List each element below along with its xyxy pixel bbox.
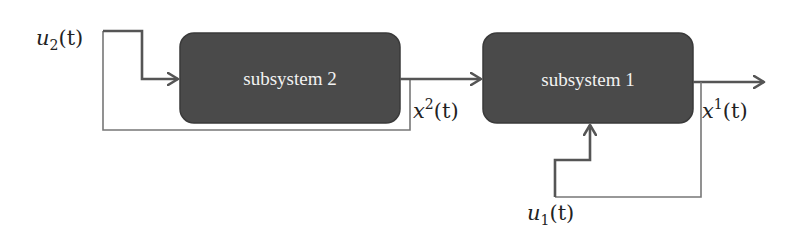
arrow-u1-to-subsystem1 [555,125,590,197]
signal-label-u2: u2(t) [36,26,83,53]
signal-label-x1: x1(t) [702,96,748,123]
signal-label-u1: u1(t) [527,201,574,228]
subsystem-1-label: subsystem 1 [541,69,634,90]
arrow-u2-to-subsystem2 [103,31,178,79]
signal-label-x2: x2(t) [413,96,459,123]
block-subsystem-1: subsystem 1 [483,33,693,123]
block-diagram: subsystem 2 subsystem 1 u2(t) x2(t) x1(t… [0,0,801,243]
block-subsystem-2: subsystem 2 [180,33,400,123]
subsystem-2-label: subsystem 2 [243,68,336,89]
